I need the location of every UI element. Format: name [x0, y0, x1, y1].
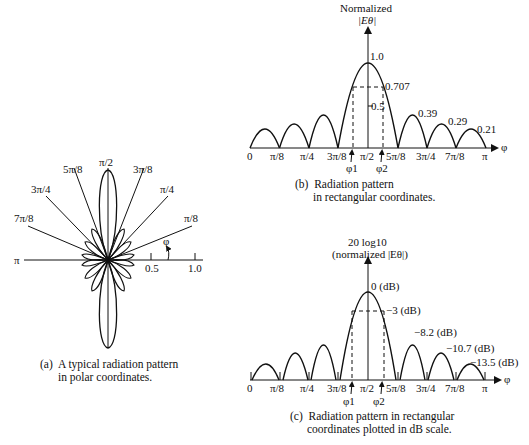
tick-label-0.5: 0.5	[145, 262, 159, 274]
x-tick-c-8: π	[482, 382, 488, 394]
x-label-c: φ	[504, 373, 510, 385]
annot-0.39: 0.39	[418, 107, 438, 119]
y-title-c-2: (normalized |Eθ|)	[332, 248, 408, 261]
phi-angle-arrow	[167, 247, 169, 260]
x-tick-b-6: 3π/4	[416, 150, 436, 162]
label-3pi-4: 3π/4	[31, 183, 51, 195]
radial-3pi-8	[108, 168, 144, 260]
x-tick-c-2: π/4	[300, 382, 315, 394]
x-tick-c-7: 7π/8	[445, 382, 465, 394]
x-tick-b-5: 5π/8	[386, 150, 406, 162]
label-pi-8: π/8	[184, 212, 199, 224]
marker-phi2-b: φ2	[376, 162, 388, 174]
annot-0.21: 0.21	[477, 123, 496, 135]
label-3pi-8: 3π/8	[133, 163, 153, 175]
polar-plot	[24, 168, 203, 348]
y-tick-0.5: 0.5	[371, 100, 385, 112]
caption-c-line2: coordinates plotted in dB scale.	[307, 423, 452, 436]
x-tick-c-5: 5π/8	[386, 382, 406, 394]
x-tick-c-6: 3π/4	[416, 382, 436, 394]
label-pi-2: π/2	[99, 156, 113, 168]
x-tick-c-4: π/2	[360, 382, 374, 394]
x-tick-c-3: 3π/8	[327, 382, 347, 394]
marker-phi1-c: φ1	[343, 395, 355, 407]
x-tick-b-4: π/2	[360, 150, 374, 162]
x-tick-b-3: 3π/8	[327, 150, 347, 162]
caption-a-line1: (a) A typical radiation pattern	[40, 358, 178, 371]
annot-13.5db: −13.5 (dB)	[470, 356, 519, 369]
radial-3pi-4	[46, 196, 108, 260]
annot-10.7db: −10.7 (dB)	[446, 342, 495, 355]
x-tick-b-7: 7π/8	[445, 150, 465, 162]
x-tick-b-2: π/4	[300, 150, 315, 162]
rect-plot-c	[250, 258, 500, 394]
annot-0.29: 0.29	[448, 115, 468, 127]
y-title-b-2: |Eθ|	[358, 14, 376, 26]
x-tick-b-8: π	[482, 150, 488, 162]
x-tick-b-1: π/8	[270, 150, 285, 162]
annot-0db: 0 (dB)	[371, 280, 400, 293]
marker-phi2-c: φ2	[373, 395, 385, 407]
y-title-b-1: Normalized	[340, 2, 392, 14]
tick-label-1.0: 1.0	[188, 262, 202, 274]
label-5pi-8: 5π/8	[63, 163, 83, 175]
caption-b-line2: in rectangular coordinates.	[313, 191, 435, 204]
label-pi-4: π/4	[160, 183, 175, 195]
marker-phi1-b: φ1	[346, 162, 358, 174]
label-7pi-8: 7π/8	[14, 212, 34, 224]
x-tick-b-0: 0	[247, 150, 253, 162]
x-label-b: φ	[501, 141, 507, 153]
annot-3db: −3 (dB)	[386, 304, 421, 317]
label-pi: π	[14, 254, 20, 266]
phi-symbol: φ	[163, 235, 169, 247]
rect-plot-c-labels: 20 log10 (normalized |Eθ|) 0 (dB) −3 (dB…	[247, 236, 519, 407]
radial-5pi-8	[74, 168, 108, 260]
y-title-c-1: 20 log10	[348, 236, 387, 248]
annot-0.707: 0.707	[385, 80, 410, 92]
x-tick-c-1: π/8	[270, 382, 285, 394]
caption-a-line2: in polar coordinates.	[58, 371, 152, 384]
annot-8.2db: −8.2 (dB)	[414, 326, 457, 339]
caption-c-line1: (c) Radiation pattern in rectangular	[290, 410, 454, 423]
x-tick-c-0: 0	[247, 382, 253, 394]
caption-b-line1: (b) Radiation pattern	[295, 178, 394, 191]
rect-plot-b	[250, 28, 497, 162]
y-tick-1.0: 1.0	[370, 50, 384, 62]
